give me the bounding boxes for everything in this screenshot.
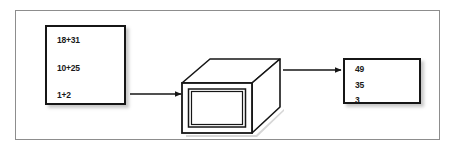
- input-expressions-box: 18+31 10+25 1+2: [45, 25, 126, 105]
- sigma-icon: Σ: [362, 145, 414, 150]
- processor-panel-inner-border: [192, 92, 243, 125]
- input-expression-line: 18+31: [57, 36, 124, 45]
- summation-box-shape: [172, 57, 290, 139]
- diagram-canvas: 18+31 10+25 1+2 Σ 49 35 3: [0, 0, 456, 150]
- summation-processor: Σ: [172, 57, 290, 139]
- output-result-line: 35: [355, 81, 419, 90]
- input-expression-line: 1+2: [57, 91, 124, 100]
- output-results-box: 49 35 3: [343, 58, 421, 104]
- input-expressions-list: 18+31 10+25 1+2: [47, 27, 124, 103]
- output-results-list: 49 35 3: [345, 60, 419, 102]
- output-result-line: 49: [355, 65, 419, 74]
- output-result-line: 3: [355, 96, 419, 105]
- input-expression-line: 10+25: [57, 64, 124, 73]
